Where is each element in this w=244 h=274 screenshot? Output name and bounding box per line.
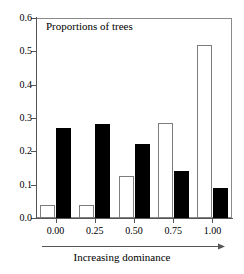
x-axis-caption: Increasing dominance — [0, 250, 244, 264]
x-axis-tick — [212, 219, 213, 223]
bar-filled — [95, 124, 110, 218]
y-axis-tick-label: 0.3 — [20, 113, 33, 123]
x-axis-tick-label: 0.25 — [86, 225, 104, 236]
x-axis-tick — [134, 219, 135, 223]
x-axis-tick — [95, 219, 96, 223]
x-axis-tick-label: 0.75 — [164, 225, 182, 236]
x-axis-tick-label: 0.00 — [47, 225, 65, 236]
bar-open — [119, 176, 134, 218]
bar-filled — [174, 171, 189, 218]
plot-title: Proportions of trees — [46, 20, 133, 33]
y-axis-line — [36, 17, 37, 219]
bar-filled — [213, 188, 228, 218]
y-axis-tick-label: 0.5 — [20, 46, 33, 56]
y-axis-tick-label: 0.1 — [20, 180, 33, 190]
bar-filled — [56, 128, 71, 218]
bar-open — [197, 45, 212, 218]
bar-open — [40, 205, 55, 218]
x-axis-tick-label: 0.50 — [125, 225, 143, 236]
chart-figure: 0.00.10.20.30.40.50.6 0.000.250.500.751.… — [0, 0, 244, 274]
x-axis-tick — [173, 219, 174, 223]
y-axis-tick-label: 0.2 — [20, 146, 33, 156]
y-axis-tick-label: 0.4 — [20, 80, 33, 90]
x-axis-tick — [56, 219, 57, 223]
bar-filled — [135, 144, 150, 218]
y-axis-tick-label: 0.6 — [20, 13, 33, 23]
x-axis-tick-label: 1.00 — [204, 225, 222, 236]
increasing-dominance-arrow — [42, 243, 225, 250]
bar-open — [79, 205, 94, 218]
bar-open — [158, 123, 173, 218]
y-axis-tick-label: 0.0 — [20, 213, 33, 223]
